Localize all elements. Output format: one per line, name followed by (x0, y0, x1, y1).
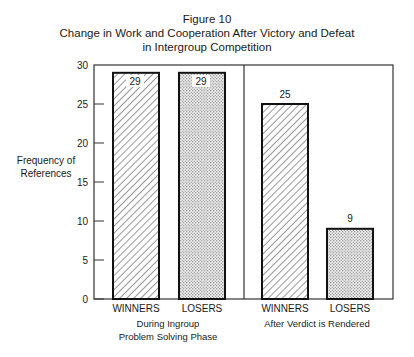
x-label-winners-1: WINNERS (112, 303, 160, 314)
bar-value-label: 9 (347, 213, 353, 224)
bar-winners-verdict: 25 (262, 89, 308, 299)
bar-winners-ingroup: 29 (113, 73, 159, 299)
group-label-ingroup-line-1: During Ingroup (137, 318, 200, 329)
y-axis-label-line-2: References (20, 168, 71, 179)
bar-value-label: 29 (195, 76, 207, 87)
bar-value-label: 29 (129, 76, 141, 87)
y-tick-30: 30 (77, 60, 89, 71)
y-axis: 0 5 10 15 20 25 30 (77, 60, 104, 305)
group-label-ingroup-line-2: Problem Solving Phase (119, 331, 218, 342)
y-tick-10: 10 (77, 216, 89, 227)
y-tick-25: 25 (77, 99, 89, 110)
x-label-winners-2: WINNERS (261, 303, 309, 314)
bar-value-label: 25 (279, 89, 291, 100)
bar-losers-ingroup: 29 (179, 73, 225, 299)
group-label-verdict: After Verdict is Rendered (264, 318, 370, 329)
bar-losers-verdict: 9 (327, 213, 373, 299)
y-tick-20: 20 (77, 138, 89, 149)
x-label-losers-1: LOSERS (182, 303, 223, 314)
y-axis-label-line-1: Frequency of (17, 155, 76, 166)
x-label-losers-2: LOSERS (330, 303, 371, 314)
y-tick-5: 5 (82, 255, 88, 266)
bar-chart: 0 5 10 15 20 25 30 Frequency of Referenc… (0, 0, 414, 357)
y-tick-15: 15 (77, 177, 89, 188)
y-tick-0: 0 (82, 294, 88, 305)
